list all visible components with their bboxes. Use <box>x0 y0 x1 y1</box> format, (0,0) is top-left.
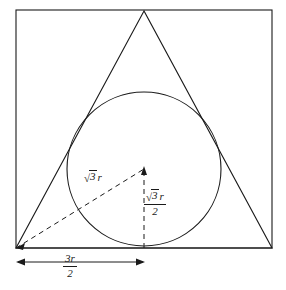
radicand-diagonal: 3 <box>89 170 97 182</box>
geometry-figure: √3r √3r 2 3r 2 <box>0 0 286 290</box>
fraction-numerator-base: 3r <box>63 253 77 267</box>
radical-expression-diagonal: √3r <box>84 171 102 183</box>
label-three-r-over-2: 3r 2 <box>63 253 77 279</box>
figure-canvas <box>0 0 286 290</box>
fraction-numerator-vertical: √3r <box>144 190 166 205</box>
radical-expression-vertical: √3r <box>146 190 164 203</box>
multiplier-vertical: r <box>160 190 164 202</box>
multiplier-diagonal: r <box>98 171 102 183</box>
fraction-denominator-base: 2 <box>63 267 77 280</box>
base-dimension-line <box>16 259 145 266</box>
label-sqrt-3-r-over-2: √3r 2 <box>144 190 166 217</box>
radicand-vertical: 3 <box>151 189 159 202</box>
fraction-base: 3r 2 <box>63 253 77 279</box>
label-sqrt-3-r: √3r <box>84 171 102 183</box>
fraction-denominator-vertical: 2 <box>144 205 166 218</box>
fraction-vertical: √3r 2 <box>144 190 166 217</box>
diagonal-dashed-segment <box>16 169 144 250</box>
